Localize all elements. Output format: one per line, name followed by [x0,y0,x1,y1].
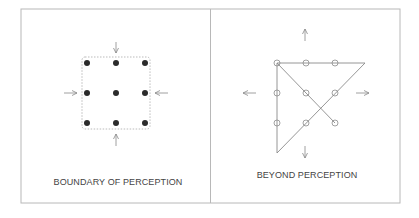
solution-lines [277,63,365,153]
left-panel [64,42,168,146]
left-panel-title: BOUNDARY OF PERCEPTION [54,177,183,187]
right-panel [243,29,369,158]
filled-dots [84,60,148,126]
right-panel-title: BEYOND PERCEPTION [257,170,358,180]
